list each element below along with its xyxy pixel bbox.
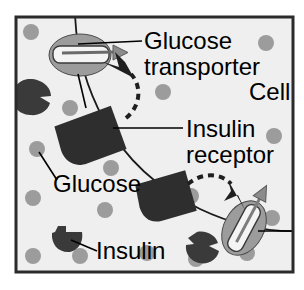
glucose-molecule-icon xyxy=(25,248,41,264)
diagram-figure: Glucose transporter Cell Insulin recepto… xyxy=(0,0,304,290)
transporter-channel xyxy=(53,46,109,63)
glucose-molecule-icon xyxy=(62,100,78,116)
label-cell: Cell xyxy=(249,78,290,105)
label-glucose-transporter-line2: transporter xyxy=(144,53,260,80)
glucose-molecule-icon xyxy=(155,84,171,100)
glucose-molecule-icon xyxy=(97,202,113,218)
glucose-molecule-icon xyxy=(72,248,88,264)
label-insulin: Insulin xyxy=(96,237,165,264)
glucose-molecule-icon xyxy=(29,141,45,157)
glucose-molecule-icon xyxy=(258,35,274,51)
glucose-molecule-icon xyxy=(23,24,39,40)
label-insulin-receptor-line1: Insulin xyxy=(186,115,255,142)
label-glucose: Glucose xyxy=(53,170,141,197)
glucose-molecule-icon xyxy=(25,190,41,206)
label-glucose-transporter-line1: Glucose xyxy=(144,27,232,54)
diagram-canvas: Glucose transporter Cell Insulin recepto… xyxy=(0,0,304,290)
label-insulin-receptor-line2: receptor xyxy=(186,141,274,168)
